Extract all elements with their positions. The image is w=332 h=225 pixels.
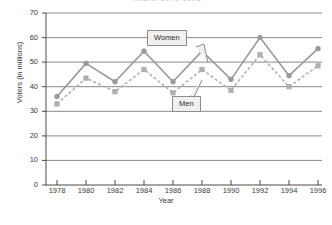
data-point-men-1988 (200, 67, 204, 71)
data-point-men-1996 (316, 64, 320, 68)
callout-label-women: Women (147, 30, 187, 46)
data-point-men-1980 (84, 76, 88, 80)
series-women (55, 35, 321, 99)
data-point-women-1982 (113, 80, 118, 85)
x-tick-label-1996: 1996 (301, 187, 332, 195)
chart-figure: Voters: 1978-1996 (0, 0, 332, 225)
series-line-women (57, 38, 318, 97)
data-point-men-1994 (287, 85, 291, 89)
data-point-men-1984 (142, 67, 146, 71)
y-tick-label-70: 70 (16, 9, 38, 17)
y-tick-marks (42, 13, 46, 185)
y-axis-title: Voters (in millions) (15, 25, 24, 121)
data-point-men-1978 (55, 102, 59, 106)
data-point-women-1980 (84, 61, 89, 66)
data-point-women-1996 (316, 46, 321, 51)
data-point-women-1990 (229, 77, 234, 82)
y-tick-label-10: 10 (16, 156, 38, 164)
data-point-women-1978 (55, 94, 60, 99)
x-axis-title: Year (0, 196, 332, 205)
callout-men-tail (190, 80, 202, 97)
data-point-men-1986 (171, 91, 175, 95)
callout-label-men: Men (172, 96, 201, 112)
data-point-women-1994 (287, 73, 292, 78)
y-tick-label-0: 0 (16, 181, 38, 189)
y-tick-label-20: 20 (16, 132, 38, 140)
callout-women-tail (196, 44, 208, 63)
data-point-women-1986 (171, 80, 176, 85)
data-point-men-1992 (258, 53, 262, 57)
data-point-men-1982 (113, 90, 117, 94)
x-tick-marks (57, 180, 318, 185)
data-point-women-1992 (258, 35, 263, 40)
data-point-men-1990 (229, 88, 233, 92)
data-point-women-1984 (142, 49, 147, 54)
